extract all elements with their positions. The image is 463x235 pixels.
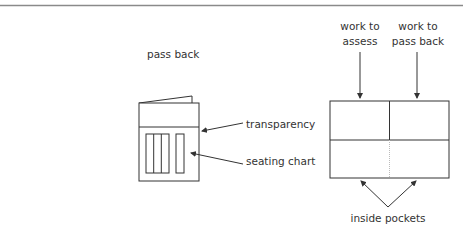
inside-pocket-arrow-left [361,181,388,207]
inside-pocket-arrow-right [388,181,416,207]
folder-diagram: pass back transparency seating chart wor… [0,0,463,235]
back-flap [139,96,192,103]
transparency-arrow [202,123,243,131]
inside-pockets-label: inside pockets [350,212,425,224]
left-pocket-label-line2: assess [343,35,378,47]
left-pocket-label-line1: work to [340,20,379,32]
transparency-label: transparency [246,118,315,130]
right-pocket-label-line2: pass back [392,35,445,47]
seating-chart-label: seating chart [246,155,315,167]
right-pocket-label-line1: work to [398,20,437,32]
closed-folder-title: pass back [147,48,200,60]
closed-folder [139,96,199,181]
